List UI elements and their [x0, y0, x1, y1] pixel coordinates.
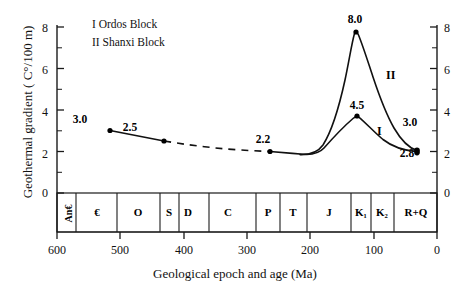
curve-ii-line — [300, 32, 417, 155]
epoch-label-ancambrian: An€ — [63, 197, 74, 231]
chart-figure: Geothermal gradient ( C°/100 m) 8 6 4 2 … — [0, 0, 470, 300]
y-axis-left-major-ticks — [57, 27, 64, 193]
x-axis-ticks — [57, 232, 437, 239]
x-tick-label-100: 100 — [357, 243, 391, 258]
data-point-2-5 — [161, 138, 166, 143]
curve-i-segment-dashed — [164, 141, 270, 152]
curve-i-segment-solid-left — [110, 131, 164, 142]
epoch-label-devonian: D — [171, 206, 205, 218]
epoch-label-tertiary-quaternary: R+Q — [399, 206, 433, 218]
curve-i-segment-solid-right — [270, 116, 417, 154]
data-point-2-2 — [267, 149, 272, 154]
y-axis-right-major-ticks — [430, 27, 437, 193]
x-tick-label-500: 500 — [103, 243, 137, 258]
data-point-3-0-start — [107, 128, 112, 133]
epoch-label-ordovician: O — [121, 206, 155, 218]
epoch-label-triassic: T — [276, 206, 310, 218]
x-tick-label-600: 600 — [40, 243, 74, 258]
x-tick-label-400: 400 — [167, 243, 201, 258]
x-axis-title: Geological epoch and age (Ma) — [0, 266, 470, 282]
data-point-8-0-peak — [353, 29, 358, 34]
x-tick-label-0: 0 — [420, 243, 454, 258]
x-tick-label-200: 200 — [293, 243, 327, 258]
epoch-label-carboniferous: C — [211, 206, 245, 218]
data-point-2-8-end — [414, 150, 420, 156]
epoch-label-cambrian: € — [80, 206, 114, 218]
epoch-label-cretaceous-2: K₂ — [365, 206, 399, 218]
x-tick-label-300: 300 — [230, 243, 264, 258]
epoch-label-jurassic: J — [312, 206, 346, 218]
data-point-4-5-peak — [354, 113, 359, 118]
